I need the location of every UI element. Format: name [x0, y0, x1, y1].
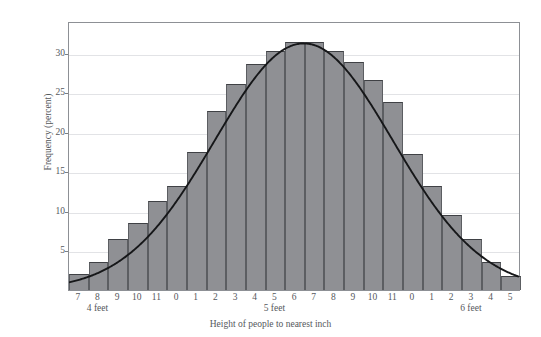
x-tick-label: 5	[501, 292, 519, 303]
histogram-bar	[383, 102, 403, 290]
y-tick-label-25: 25	[37, 88, 65, 98]
histogram-bar	[207, 111, 227, 290]
histogram-bar	[69, 274, 89, 290]
histogram-bar	[482, 262, 502, 290]
y-axis: Frequency (percent) 30252015105	[32, 22, 65, 291]
x-axis-title: Height of people to nearest inch	[0, 319, 541, 329]
histogram-bar	[167, 186, 187, 290]
y-tick-label-15: 15	[37, 167, 65, 177]
histogram-bar	[462, 239, 482, 290]
histogram-bar	[403, 154, 423, 290]
histogram-bar	[501, 276, 521, 290]
histogram-bar	[285, 42, 305, 290]
x-tick-label: 6	[285, 292, 303, 303]
x-tick-label: 8	[324, 292, 342, 303]
histogram-bar	[344, 62, 364, 290]
x-tick-label: 4	[482, 292, 500, 303]
histogram-bar	[266, 51, 286, 290]
x-tick-label: 5	[265, 292, 283, 303]
x-tick-label: 7	[305, 292, 323, 303]
histogram-bar	[246, 64, 266, 290]
y-tick-label-5: 5	[37, 246, 65, 256]
histogram-bar	[226, 84, 246, 290]
y-tick-label-10: 10	[37, 207, 65, 217]
histogram-figure: Frequency (percent) 30252015105 78910110…	[0, 0, 541, 337]
x-tick-label: 11	[147, 292, 165, 303]
x-tick-label: 2	[206, 292, 224, 303]
histogram-bar	[305, 42, 325, 290]
histogram-bar	[423, 186, 443, 290]
x-tick-label: 1	[187, 292, 205, 303]
y-tick-label-20: 20	[37, 128, 65, 138]
x-tick-label: 0	[167, 292, 185, 303]
histogram-bar	[324, 51, 344, 290]
x-tick-label: 9	[108, 292, 126, 303]
x-tick-label: 8	[88, 292, 106, 303]
x-tick-label: 2	[442, 292, 460, 303]
x-tick-label: 3	[462, 292, 480, 303]
histogram-bar	[128, 223, 148, 290]
x-tick-label: 3	[226, 292, 244, 303]
x-axis-group-labels: 4 feet5 feet6 feet	[68, 303, 520, 317]
x-group-label: 5 feet	[244, 303, 304, 313]
histogram-bars	[69, 23, 519, 290]
histogram-bar	[148, 201, 168, 290]
x-tick-label: 7	[69, 292, 87, 303]
histogram-bar	[364, 80, 384, 290]
x-tick-label: 10	[128, 292, 146, 303]
x-tick-label: 10	[364, 292, 382, 303]
x-tick-label: 1	[423, 292, 441, 303]
x-tick-label: 9	[344, 292, 362, 303]
x-tick-label: 0	[403, 292, 421, 303]
histogram-bar	[89, 262, 109, 290]
histogram-bar	[108, 239, 128, 290]
x-tick-label: 4	[246, 292, 264, 303]
plot-area	[68, 22, 520, 291]
histogram-bar	[187, 152, 207, 290]
x-group-label: 4 feet	[67, 303, 127, 313]
histogram-bar	[442, 215, 462, 290]
y-tick-label-30: 30	[37, 49, 65, 59]
x-tick-label: 11	[383, 292, 401, 303]
x-group-label: 6 feet	[441, 303, 501, 313]
